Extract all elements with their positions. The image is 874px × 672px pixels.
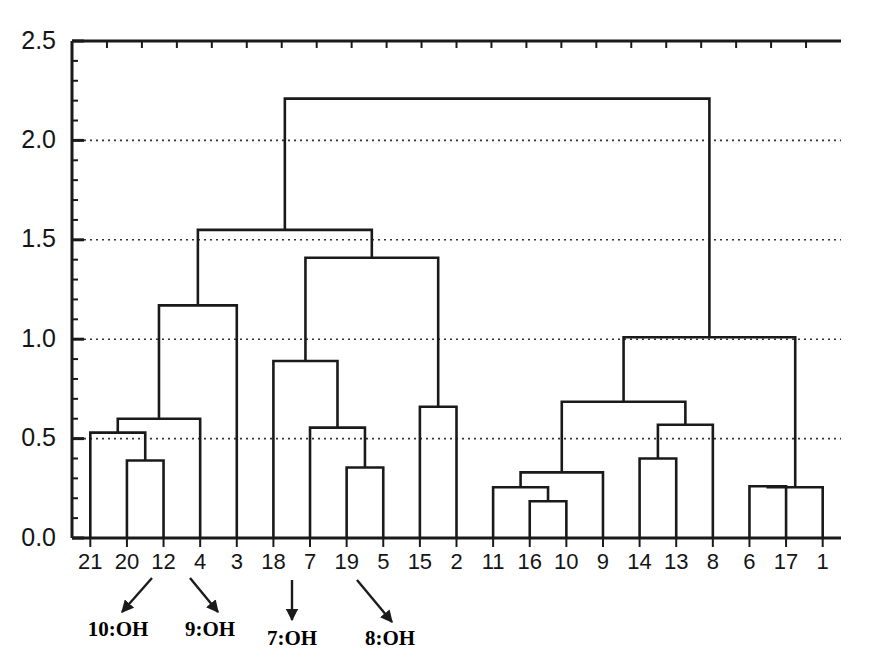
annotation-arrow-icon [190,578,218,612]
leaf-label-20: 20 [115,549,139,574]
y-axis-tick-labels: 0.00.51.01.52.02.5 [21,26,56,551]
link-path [198,230,372,306]
link-path [768,486,823,538]
dendrogram-link [562,402,686,473]
annotation-label: 9:OH [185,617,235,641]
link-path [530,501,567,538]
leaf-label-1: 1 [817,549,829,574]
leaf-label-16: 16 [517,549,541,574]
annotation-label: 10:OH [88,617,149,641]
annotation-label: 7:OH [267,626,317,650]
leaf-label-15: 15 [408,549,432,574]
leaf-label-11: 11 [482,549,505,574]
annotation-10-OH: 10:OH [88,578,152,641]
dendrogram-link [198,230,372,306]
link-path [521,472,603,538]
annotation-8-OH: 8:OH [357,580,415,650]
link-path [562,402,686,473]
leaf-ticks [90,538,822,547]
link-path [305,258,438,407]
leaf-label-21: 21 [78,549,102,574]
link-path [285,99,710,338]
dendrogram-link [273,361,337,538]
y-tick-label: 1.0 [21,324,56,352]
annotation-7-OH: 7:OH [267,580,317,650]
dendrogram-tree [90,99,822,538]
link-path [640,458,677,538]
y-tick-label: 0.0 [21,523,56,551]
leaf-label-2: 2 [450,549,462,574]
dendrogram-link [521,472,603,538]
link-path [347,467,384,538]
dendrogram-link [420,407,457,538]
leaf-label-6: 6 [743,549,755,574]
leaf-label-19: 19 [334,549,358,574]
dendrogram-link [658,425,713,538]
leaf-label-17: 17 [774,549,798,574]
grid-lines [72,140,841,438]
dendrogram-link [285,99,710,338]
dendrogram-link [310,428,365,538]
leaf-label-7: 7 [304,549,316,574]
dendrogram-link [118,419,200,538]
leaf-label-3: 3 [231,549,243,574]
dendrogram-link [90,433,145,538]
dendrogram-link [749,486,786,538]
link-path [749,486,786,538]
leaf-label-14: 14 [627,549,651,574]
dendrogram-link [159,305,237,538]
link-path [310,428,365,538]
link-path [658,425,713,538]
link-path [273,361,337,538]
link-path [420,407,457,538]
link-path [493,487,548,538]
dendrogram-link [305,258,438,407]
leaf-label-13: 13 [664,549,688,574]
dendrogram-link [624,337,796,487]
leaf-label-8: 8 [707,549,719,574]
y-tick-label: 2.0 [21,125,56,153]
leaf-label-10: 10 [554,549,578,574]
dendrogram-link [640,458,677,538]
dendrogram-figure: 0.00.51.01.52.02.5 212012431871951521116… [0,0,874,672]
link-path [90,433,145,538]
link-path [159,305,237,538]
annotation-group: 10:OH9:OH7:OH8:OH [88,578,415,650]
leaf-label-18: 18 [261,549,285,574]
link-path [118,419,200,538]
leaf-label-9: 9 [597,549,609,574]
y-tick-label: 2.5 [21,26,56,54]
annotation-9-OH: 9:OH [185,578,235,641]
annotation-label: 8:OH [365,626,415,650]
dendrogram-link [347,467,384,538]
annotation-arrow-icon [357,580,392,622]
y-tick-label: 0.5 [21,423,56,451]
leaf-labels: 212012431871951521116109141386171 [78,549,829,574]
y-tick-label: 1.5 [21,224,56,252]
link-path [624,337,796,487]
dendrogram-link [530,501,567,538]
leaf-label-12: 12 [151,549,175,574]
dendrogram-link [493,487,548,538]
leaf-label-5: 5 [377,549,389,574]
annotation-arrow-icon [122,578,152,612]
dendrogram-link [768,486,823,538]
dendrogram-link [127,460,164,538]
leaf-label-4: 4 [194,549,206,574]
dendrogram-canvas: 0.00.51.01.52.02.5 212012431871951521116… [0,0,874,672]
link-path [127,460,164,538]
